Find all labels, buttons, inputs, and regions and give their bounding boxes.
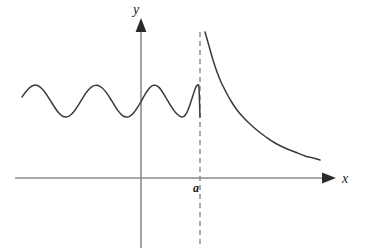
oscillating-curve [22,85,200,117]
y-axis-arrowhead [136,18,147,32]
decaying-curve [205,32,320,160]
function-graph: y x a [0,0,367,252]
x-axis-label: x [341,171,349,186]
figure-canvas: y x a [0,0,367,252]
y-axis [136,18,147,248]
y-axis-label: y [131,2,140,17]
x-axis-arrowhead [322,173,336,184]
x-axis [15,173,336,184]
asymptote-label-a: a [193,181,199,195]
